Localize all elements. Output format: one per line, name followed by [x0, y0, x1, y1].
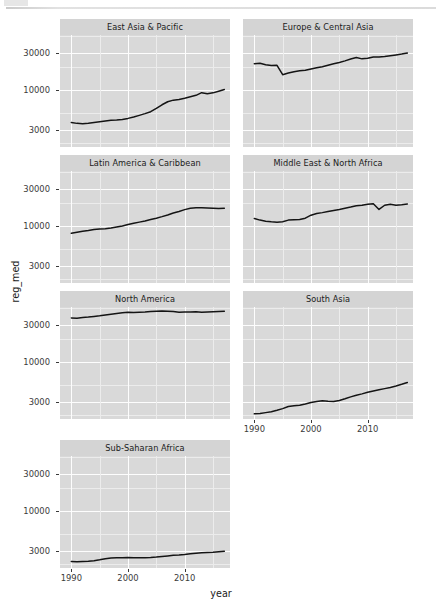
x-tick-mark — [185, 569, 186, 572]
y-tick-label: 30000 — [2, 320, 50, 330]
y-tick-label: 10000 — [2, 85, 50, 95]
series-line-5 — [60, 307, 230, 419]
facet-panel: East Asia & Pacific — [60, 19, 230, 147]
panel-body — [60, 307, 230, 419]
y-tick-mark — [56, 189, 59, 190]
x-tick-label: 2010 — [348, 424, 388, 434]
y-tick-label: 30000 — [2, 469, 50, 479]
y-axis-title: reg_med — [10, 247, 21, 317]
series-path — [71, 208, 224, 233]
facet-panel: South Asia — [243, 291, 413, 419]
series-path — [71, 551, 224, 562]
y-tick-label: 3000 — [2, 397, 50, 407]
x-tick-mark — [311, 420, 312, 423]
panel-body — [243, 35, 413, 147]
facet-strip: North America — [60, 291, 230, 307]
facet-panel: Latin America & Caribbean — [60, 155, 230, 283]
y-tick-label: 3000 — [2, 125, 50, 135]
x-tick-mark — [128, 569, 129, 572]
facet-strip-label: South Asia — [306, 294, 350, 304]
panel-body — [60, 171, 230, 283]
series-path — [254, 204, 407, 222]
facet-strip: East Asia & Pacific — [60, 19, 230, 35]
series-path — [254, 382, 407, 413]
y-tick-label: 10000 — [2, 506, 50, 516]
y-tick-mark — [56, 53, 59, 54]
panel-body — [243, 171, 413, 283]
facet-strip: Latin America & Caribbean — [60, 155, 230, 171]
panel-body — [60, 456, 230, 568]
panel-body — [60, 35, 230, 147]
facet-panel: Europe & Central Asia — [243, 19, 413, 147]
series-line-7 — [60, 456, 230, 568]
x-axis-title: year — [0, 588, 442, 599]
series-path — [254, 53, 407, 75]
facet-strip: Middle East & North Africa — [243, 155, 413, 171]
x-tick-mark — [254, 420, 255, 423]
x-tick-label: 2010 — [165, 573, 205, 583]
y-tick-mark — [56, 511, 59, 512]
facet-strip-label: Sub-Saharan Africa — [105, 443, 184, 453]
y-tick-label: 30000 — [2, 48, 50, 58]
y-tick-mark — [56, 551, 59, 552]
series-line-6 — [243, 307, 413, 419]
facet-strip: Europe & Central Asia — [243, 19, 413, 35]
facet-panel: North America — [60, 291, 230, 419]
y-tick-label: 10000 — [2, 221, 50, 231]
y-tick-label: 30000 — [2, 184, 50, 194]
y-tick-mark — [56, 90, 59, 91]
y-tick-mark — [56, 266, 59, 267]
series-line-4 — [243, 171, 413, 283]
x-tick-label: 1990 — [51, 573, 91, 583]
facet-strip-label: Latin America & Caribbean — [89, 158, 200, 168]
y-tick-mark — [56, 226, 59, 227]
facet-strip: South Asia — [243, 291, 413, 307]
y-tick-mark — [56, 130, 59, 131]
facet-strip-label: North America — [115, 294, 175, 304]
y-tick-mark — [56, 325, 59, 326]
series-path — [71, 311, 224, 318]
facet-panel: Middle East & North Africa — [243, 155, 413, 283]
x-tick-label: 2000 — [291, 424, 331, 434]
y-tick-label: 3000 — [2, 546, 50, 556]
series-line-1 — [60, 35, 230, 147]
y-tick-mark — [56, 362, 59, 363]
y-tick-mark — [56, 402, 59, 403]
x-tick-label: 2000 — [108, 573, 148, 583]
facet-panel: Sub-Saharan Africa — [60, 440, 230, 568]
y-tick-label: 10000 — [2, 357, 50, 367]
x-tick-mark — [368, 420, 369, 423]
panel-body — [243, 307, 413, 419]
facet-strip: Sub-Saharan Africa — [60, 440, 230, 456]
series-line-3 — [60, 171, 230, 283]
x-tick-mark — [71, 569, 72, 572]
y-tick-label: 3000 — [2, 261, 50, 271]
facet-chart: reg_med year East Asia & Pacific30001000… — [0, 0, 442, 611]
series-path — [71, 90, 224, 124]
facet-strip-label: Middle East & North Africa — [273, 158, 382, 168]
facet-strip-label: Europe & Central Asia — [282, 22, 373, 32]
x-tick-label: 1990 — [234, 424, 274, 434]
y-tick-mark — [56, 474, 59, 475]
facet-strip-label: East Asia & Pacific — [107, 22, 183, 32]
series-line-2 — [243, 35, 413, 147]
